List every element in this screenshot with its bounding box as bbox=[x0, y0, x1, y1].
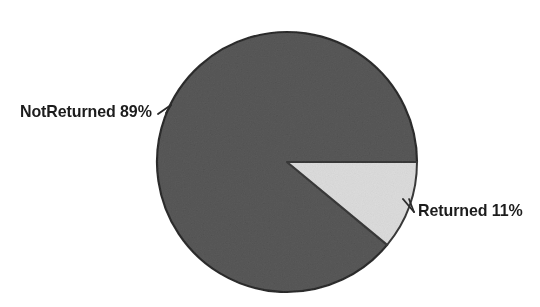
pie-label-notreturned: NotReturned 89% bbox=[20, 103, 152, 120]
pie-label-returned: Returned 11% bbox=[418, 202, 523, 219]
pie-chart: NotReturned 89% Returned 11% bbox=[0, 0, 540, 307]
pie-chart-canvas bbox=[0, 0, 540, 307]
